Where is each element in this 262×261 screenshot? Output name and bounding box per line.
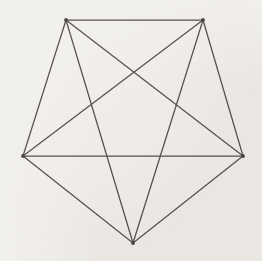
vertex-top-right	[201, 18, 205, 22]
vertex-top-left	[64, 18, 68, 22]
edge-layer	[23, 20, 243, 243]
pentagon-complete-graph	[0, 0, 262, 261]
edge-D-E	[23, 156, 133, 243]
edge-B-C	[203, 20, 243, 156]
edge-A-D	[66, 20, 133, 243]
vertex-right	[241, 154, 245, 158]
vertex-left	[21, 154, 25, 158]
figure-canvas	[0, 0, 262, 261]
edge-E-A	[23, 20, 66, 156]
edge-C-D	[133, 156, 243, 243]
edge-B-D	[133, 20, 203, 243]
vertex-bottom	[131, 241, 135, 245]
edge-A-C	[66, 20, 243, 156]
edge-B-E	[23, 20, 203, 156]
